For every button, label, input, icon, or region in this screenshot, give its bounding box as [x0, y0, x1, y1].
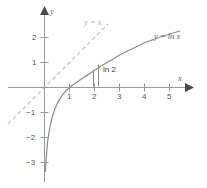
y-tick-label-neg2: −2 [26, 134, 35, 142]
y-tick-label-1: 1 [32, 59, 36, 67]
x-axis-label: x [178, 74, 182, 83]
ln-curve [45, 31, 180, 171]
y-tick-label-neg1: −1 [26, 109, 35, 117]
identity-line-label: y = x [84, 18, 102, 27]
y-tick-label-2: 2 [32, 34, 36, 42]
x-tick-label-2: 2 [92, 93, 96, 101]
y-axis-arrow [40, 6, 49, 15]
x-tick-label-3: 3 [117, 93, 121, 101]
x-tick-label-4: 4 [142, 93, 146, 101]
y-tick-label-neg3: −3 [26, 159, 35, 167]
ln2-annotation-label: ln 2 [103, 66, 116, 74]
log-curve-label: y = ln x [154, 32, 180, 41]
x-tick-label-5: 5 [167, 93, 171, 101]
x-tick-label-1: 1 [67, 93, 71, 101]
graph-figure: y x 1 2 3 4 5 2 1 −1 −2 −3 y = x y = ln … [0, 0, 207, 188]
y-axis-label: y [50, 7, 54, 16]
x-axis-arrow [185, 83, 194, 92]
